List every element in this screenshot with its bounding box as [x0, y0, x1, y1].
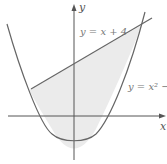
y-axis-label: y: [78, 1, 86, 14]
parabola-equation-label: y = x² − 2: [127, 81, 167, 92]
line-equation-label: y = x + 4: [79, 26, 127, 37]
x-axis-label: x: [160, 120, 167, 133]
x-axis-arrow-icon: [159, 114, 166, 119]
shaded-region: [29, 25, 142, 149]
y-axis-arrow-icon: [72, 4, 77, 11]
region-between-curves-chart: y = x + 4 y = x² − 2 x y: [0, 0, 167, 164]
